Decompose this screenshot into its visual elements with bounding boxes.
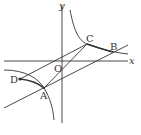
- hyperbola-diagram: y x O A B C D: [0, 0, 141, 135]
- point-c-label: C: [86, 33, 94, 44]
- line-ac: [44, 44, 87, 88]
- x-axis-label: x: [129, 55, 135, 66]
- point-a-label: A: [39, 90, 48, 101]
- y-axis-label: y: [58, 0, 65, 11]
- point-d-label: D: [10, 74, 18, 85]
- line-ab: [4, 45, 128, 108]
- point-a-dot: [43, 87, 45, 89]
- point-d-dot: [18, 77, 21, 80]
- point-b-label: B: [110, 41, 117, 52]
- origin-label: O: [54, 63, 62, 74]
- diagram-svg: y x O A B C D: [0, 0, 141, 135]
